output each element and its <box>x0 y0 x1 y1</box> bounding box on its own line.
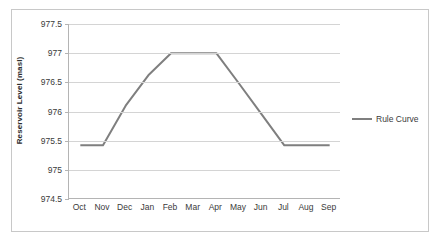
y-tick-label: 976 <box>28 107 62 117</box>
chart-figure: Reservoir Level (masl) 974.5975975.59769… <box>0 0 441 244</box>
gridline <box>69 112 340 113</box>
y-tick-mark <box>65 82 69 83</box>
y-tick-mark <box>65 112 69 113</box>
y-tick-mark <box>65 24 69 25</box>
y-tick-label: 975.5 <box>28 136 62 146</box>
gridline <box>69 82 340 83</box>
legend-swatch-rule-curve <box>352 118 372 120</box>
y-tick-label: 976.5 <box>28 77 62 87</box>
legend-label-rule-curve: Rule Curve <box>376 114 419 124</box>
y-tick-mark <box>65 199 69 200</box>
y-tick-mark <box>65 141 69 142</box>
y-tick-mark <box>65 53 69 54</box>
gridline <box>69 141 340 142</box>
y-axis-tick-labels: 974.5975975.5976976.5977977.5 <box>24 0 62 244</box>
plot-area <box>68 24 340 199</box>
gridline <box>69 170 340 171</box>
y-tick-label: 975 <box>28 165 62 175</box>
y-tick-label: 974.5 <box>28 194 62 204</box>
y-axis-title: Reservoir Level (masl) <box>15 46 24 156</box>
y-tick-mark <box>65 170 69 171</box>
y-tick-label: 977.5 <box>28 19 62 29</box>
gridline <box>69 24 340 25</box>
x-tick-label: Sep <box>309 202 349 212</box>
gridline <box>69 53 340 54</box>
y-tick-label: 977 <box>28 48 62 58</box>
x-axis-tick-labels: OctNovDecJanFebMarAprMayJunJulAugSep <box>68 202 340 220</box>
chart-legend: Rule Curve <box>352 114 419 124</box>
